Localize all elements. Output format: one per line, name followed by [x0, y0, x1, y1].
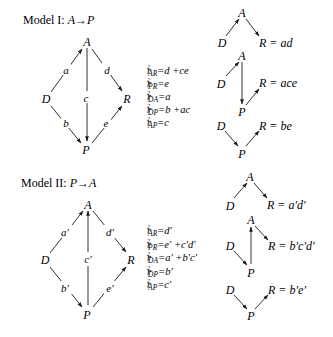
node-p: P	[246, 309, 255, 323]
edge-label-c: c	[84, 92, 89, 104]
model-1: Model I: A→P A D R P a d c b e r2AR=d +c	[23, 6, 298, 161]
equation-da: r2DA=a′ +b′c′	[147, 251, 198, 265]
model-2-title: Model II: P→A	[21, 176, 97, 190]
node-d: D	[41, 92, 51, 106]
model-1-main-diagram: A D R P a d c b e	[41, 35, 132, 157]
node-d: D	[225, 283, 235, 297]
node-d: D	[40, 253, 50, 267]
model-2-path-b-e: D P R = b′e′	[225, 283, 307, 323]
node-r: R	[122, 92, 131, 106]
equation-pr: r2PR=e′ +c′d′	[147, 238, 196, 252]
edge-label-e: e	[104, 117, 109, 129]
node-d: D	[225, 239, 235, 253]
edge-label-a-prime: a′	[61, 226, 70, 238]
node-d: D	[217, 36, 227, 50]
node-a: A	[237, 49, 246, 63]
equation-dp: r2DP=b′	[147, 265, 173, 279]
equation-ar: r2AR=d +ce	[147, 64, 189, 78]
equation-ap: r2AP=c′	[147, 278, 172, 292]
model-1-equations: r2AR=d +ce r2PR=e r2DA=a r2DP=b +ac r2AP…	[147, 64, 190, 130]
node-d: D	[225, 199, 235, 213]
model-2-path-b-c-d: A D P R = b′c′d′	[225, 213, 315, 280]
path-result-label: R = ad	[258, 36, 293, 50]
edge-label-a: a	[63, 64, 69, 76]
edge-label-e-prime: e′	[106, 282, 114, 294]
edge-label-c-prime: c′	[84, 253, 92, 265]
edge-label-b: b	[63, 117, 69, 129]
equation-dp: r2DP=b +ac	[147, 103, 190, 117]
path-result-label: R = b′e′	[267, 283, 306, 297]
node-d: D	[216, 77, 226, 91]
path-result-label: R = b′c′d′	[267, 239, 315, 253]
node-d: D	[216, 119, 226, 133]
model-2-equations: r2AR=d′ r2PR=e′ +c′d′ r2DA=a′ +b′c′ r2DP…	[147, 224, 198, 292]
node-p: P	[81, 143, 90, 157]
model-2-main-diagram: A D R P a′ d′ c′ b′ e′	[40, 198, 136, 322]
model-1-path-ad: A D R = ad	[217, 6, 294, 50]
model-2: Model II: P→A A D R P a′ d′ c′ b′ e′ r2A…	[21, 170, 315, 323]
model-1-path-be: D P R = be	[216, 119, 293, 161]
path-result-label: R = be	[258, 119, 292, 133]
edge-label-d-prime: d′	[106, 226, 115, 238]
model-1-title: Model I: A→P	[23, 13, 95, 27]
node-p: P	[237, 147, 246, 161]
model-2-path-a-d: A D R = a′d′	[225, 170, 306, 213]
node-a: A	[245, 170, 254, 184]
node-a: A	[246, 213, 255, 227]
equation-pr: r2PR=e	[147, 77, 169, 91]
equation-ap: r2AP=c	[147, 116, 169, 130]
node-r: R	[126, 253, 135, 267]
path-result-label: R = ace	[258, 76, 298, 90]
node-a: A	[237, 6, 246, 20]
equation-ar: r2AR=d′	[147, 224, 173, 238]
path-result-label: R = a′d′	[266, 198, 306, 212]
edge-label-b-prime: b′	[61, 282, 70, 294]
node-p: P	[82, 308, 91, 322]
edge-label-d: d	[104, 64, 110, 76]
node-a: A	[83, 198, 92, 212]
node-a: A	[82, 35, 91, 49]
path-diagram-figure: Model I: A→P A D R P a d c b e r2AR=d +c	[0, 0, 333, 337]
node-p: P	[246, 266, 255, 280]
node-p: P	[237, 105, 246, 119]
equation-da: r2DA=a	[147, 90, 170, 104]
model-1-path-ace: A D P R = ace	[216, 49, 298, 119]
